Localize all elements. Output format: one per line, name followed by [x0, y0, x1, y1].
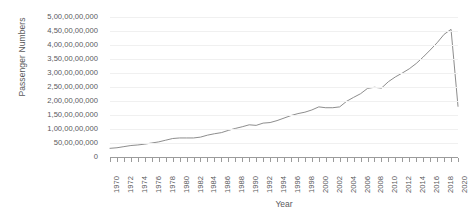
x-axis-tick [305, 158, 306, 162]
y-axis-tick-label: 50,00,00,000 [30, 139, 98, 147]
y-axis-tick-label: 4,00,00,00,000 [30, 41, 98, 49]
x-axis-tick [249, 158, 250, 162]
y-axis-tick-label: 0 [30, 153, 98, 161]
x-axis-tick [423, 158, 424, 162]
x-axis-tick [242, 158, 243, 162]
x-axis-tick [451, 158, 452, 162]
x-axis-tick [402, 158, 403, 162]
x-axis-tick [214, 158, 215, 162]
x-axis-tick [444, 158, 445, 162]
y-axis-tick-label: 1,00,00,00,000 [30, 125, 98, 133]
x-axis-tick [173, 158, 174, 162]
x-axis-tick [263, 158, 264, 162]
x-axis-tick-label: 1992 [266, 176, 274, 193]
gridline [110, 101, 458, 102]
x-axis-tick [138, 158, 139, 162]
x-axis-tick [117, 158, 118, 162]
x-axis-tick [180, 158, 181, 162]
x-axis-tick [312, 158, 313, 162]
x-axis-tick [124, 158, 125, 162]
series-line [110, 29, 458, 148]
x-axis-tick [298, 158, 299, 162]
x-axis-tick [458, 158, 459, 162]
x-axis-tick [221, 158, 222, 162]
gridline [110, 31, 458, 32]
x-axis-tick [437, 158, 438, 162]
x-axis-tick-label: 2008 [377, 176, 385, 193]
x-axis-tick-label: 1984 [210, 176, 218, 193]
x-axis-tick [361, 158, 362, 162]
y-axis-tick-label: 3,00,00,00,000 [30, 69, 98, 77]
gridline [110, 87, 458, 88]
x-axis-tick [166, 158, 167, 162]
x-axis-tick-label: 2020 [461, 176, 469, 193]
x-axis-tick [131, 158, 132, 162]
x-axis-tick [194, 158, 195, 162]
x-axis-tick-label: 1990 [252, 176, 260, 193]
y-axis-tick-label: 2,00,00,00,000 [30, 97, 98, 105]
gridline [110, 45, 458, 46]
x-axis-tick [207, 158, 208, 162]
x-axis-tick [319, 158, 320, 162]
plot-area [110, 17, 458, 157]
x-axis-tick [395, 158, 396, 162]
x-axis-tick [430, 158, 431, 162]
x-axis-tick-label: 2018 [447, 176, 455, 193]
x-axis-tick [409, 158, 410, 162]
y-axis-tick-label: 3,50,00,00,000 [30, 55, 98, 63]
x-axis-tick [200, 158, 201, 162]
x-axis-tick [416, 158, 417, 162]
x-axis-tick-label: 1978 [169, 176, 177, 193]
x-axis-tick [228, 158, 229, 162]
x-axis-tick [235, 158, 236, 162]
x-axis-tick-label: 1976 [155, 176, 163, 193]
x-axis-tick [340, 158, 341, 162]
x-axis-tick [388, 158, 389, 162]
x-axis-tick [277, 158, 278, 162]
x-axis-tick [152, 158, 153, 162]
x-axis-tick-label: 1982 [197, 176, 205, 193]
x-axis-tick-label: 1972 [127, 176, 135, 193]
gridline [110, 115, 458, 116]
x-axis-tick [187, 158, 188, 162]
x-axis-tick [347, 158, 348, 162]
gridline [110, 59, 458, 60]
x-axis-tick-label: 2002 [336, 176, 344, 193]
x-axis-tick-label: 2000 [322, 176, 330, 193]
x-axis-tick [159, 158, 160, 162]
y-axis-tick-labels: 5,00,00,00,0004,50,00,00,0004,00,00,00,0… [30, 0, 98, 220]
x-axis-tick-labels: 1970197219741976197819801982198419861988… [110, 163, 458, 195]
gridline [110, 129, 458, 130]
x-axis-tick [354, 158, 355, 162]
x-axis-tick [326, 158, 327, 162]
x-axis-title: Year [110, 199, 458, 209]
x-axis-tick [333, 158, 334, 162]
x-axis-tick-label: 1988 [238, 176, 246, 193]
x-axis-tick-label: 1994 [280, 176, 288, 193]
x-axis-tick-label: 1970 [113, 176, 121, 193]
x-axis-tick [291, 158, 292, 162]
x-axis-tick [284, 158, 285, 162]
y-axis-tick-label: 1,50,00,00,000 [30, 111, 98, 119]
x-axis-tick-label: 1980 [183, 176, 191, 193]
x-axis-tick [368, 158, 369, 162]
x-axis-tick-label: 2006 [364, 176, 372, 193]
x-axis-tick-label: 2010 [391, 176, 399, 193]
x-axis-tick-label: 2004 [350, 176, 358, 193]
y-axis-tick-label: 4,50,00,00,000 [30, 27, 98, 35]
x-axis-tick-label: 1974 [141, 176, 149, 193]
x-axis-tick [256, 158, 257, 162]
line-chart: Passenger Numbers 5,00,00,00,0004,50,00,… [0, 0, 474, 220]
x-axis-tick-label: 1986 [224, 176, 232, 193]
x-axis-tick-label: 1996 [294, 176, 302, 193]
gridline [110, 73, 458, 74]
gridline [110, 17, 458, 18]
y-axis-tick-label: 5,00,00,00,000 [30, 13, 98, 21]
x-axis-tick [145, 158, 146, 162]
x-axis-tick-label: 2012 [405, 176, 413, 193]
x-axis-tick [270, 158, 271, 162]
x-axis-tick [374, 158, 375, 162]
x-axis-tick [381, 158, 382, 162]
y-axis-title: Passenger Numbers [17, 0, 27, 117]
x-axis-tick-label: 2014 [419, 176, 427, 193]
